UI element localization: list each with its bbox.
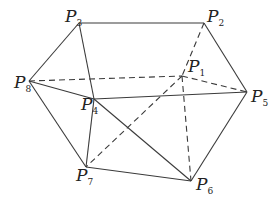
vertex-label-p7: P7 — [75, 165, 93, 187]
vertex-label-p3: P3 — [64, 6, 82, 28]
polyhedron-diagram: P1P2P3P4P5P6P7P8 — [0, 0, 275, 201]
solid-edge-p7-p6 — [86, 167, 191, 181]
vertex-label-p1: P1 — [187, 56, 205, 78]
vertex-label-p6: P6 — [195, 174, 213, 196]
vertex-labels: P1P2P3P4P5P6P7P8 — [13, 6, 268, 196]
vertex-label-p4: P4 — [80, 94, 98, 116]
solid-edge-p2-p5 — [204, 23, 247, 92]
vertex-label-p8: P8 — [13, 72, 31, 94]
solid-edge-p4-p5 — [94, 92, 247, 99]
solid-edge-p5-p6 — [191, 92, 247, 181]
dashed-edge-p1-p6 — [182, 76, 191, 181]
vertex-label-p5: P5 — [250, 86, 268, 108]
dashed-edge-p8-p1 — [29, 76, 182, 81]
dashed-edge-p1-p7 — [86, 76, 182, 167]
solid-edge-p3-p8 — [29, 23, 79, 81]
solid-edge-p4-p6 — [94, 99, 191, 181]
dashed-edges — [29, 23, 247, 181]
vertex-label-p2: P2 — [206, 6, 224, 28]
solid-edge-p3-p4 — [79, 23, 94, 99]
dashed-edge-p1-p5 — [182, 76, 247, 92]
solid-edges — [29, 23, 247, 181]
